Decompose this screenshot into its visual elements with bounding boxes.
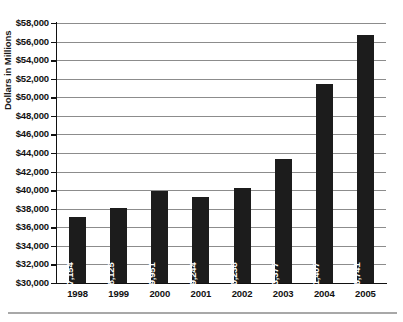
x-axis-tick-labels: 19981999200020012002200320042005: [57, 288, 386, 304]
x-axis-tick-label: 2000: [139, 288, 180, 300]
y-axis-tick: [51, 264, 57, 265]
x-axis-tick-label: 2004: [304, 288, 345, 300]
y-axis-tick-label: $36,000: [1, 222, 49, 232]
y-axis-tick-label: $42,000: [1, 167, 49, 177]
y-axis-tick-label: $50,000: [1, 92, 49, 102]
x-axis-tick-label: 2005: [345, 288, 386, 300]
x-axis-tick-label: 2001: [180, 288, 221, 300]
y-axis-tick-label: $54,000: [1, 55, 49, 65]
bar-slot: $37,154: [57, 23, 98, 283]
bar-1998[interactable]: $37,154: [69, 217, 86, 283]
bar-1999[interactable]: $38,125: [110, 208, 127, 283]
y-axis-tick-label: $38,000: [1, 204, 49, 214]
y-axis-tick: [51, 246, 57, 247]
bar-2003[interactable]: $43,377: [275, 159, 292, 283]
y-axis-tick: [51, 190, 57, 191]
bar-2002[interactable]: $40,238: [234, 188, 251, 283]
bar-slot: $51,407: [304, 23, 345, 283]
y-axis-tick: [51, 79, 57, 80]
y-axis-tick-labels: $58,000$56,000$54,000$52,000$50,000$48,0…: [0, 0, 49, 322]
y-axis-tick-label: $56,000: [1, 37, 49, 47]
y-axis-tick: [51, 209, 57, 210]
bar-slot: $38,125: [98, 23, 139, 283]
bar-2004[interactable]: $51,407: [316, 84, 333, 283]
bar-slot: $40,238: [222, 23, 263, 283]
y-axis-tick: [51, 23, 57, 24]
y-axis-tick: [51, 283, 57, 284]
y-axis-tick-label: $30,000: [1, 278, 49, 288]
y-axis-tick: [51, 134, 57, 135]
y-axis-tick: [51, 42, 57, 43]
bar-2000[interactable]: $39,951: [151, 191, 168, 283]
bar-slot: $39,244: [180, 23, 221, 283]
y-axis-tick: [51, 60, 57, 61]
bar-2005[interactable]: $56,741: [357, 35, 374, 283]
bar-slot: $43,377: [263, 23, 304, 283]
x-axis-tick-label: 1998: [57, 288, 98, 300]
y-axis-tick-label: $58,000: [1, 18, 49, 28]
y-axis-tick-label: $48,000: [1, 111, 49, 121]
bar-2001[interactable]: $39,244: [192, 197, 209, 283]
y-axis-tick: [51, 227, 57, 228]
y-axis-tick-label: $32,000: [1, 259, 49, 269]
y-axis-tick-label: $52,000: [1, 74, 49, 84]
y-axis-tick: [51, 153, 57, 154]
y-axis-tick: [51, 116, 57, 117]
x-axis-tick-label: 2002: [222, 288, 263, 300]
y-axis-tick-label: $34,000: [1, 241, 49, 251]
y-axis-tick: [51, 97, 57, 98]
bar-chart-figure: Dollars in Millions $58,000$56,000$54,00…: [0, 0, 403, 322]
plot-area: $37,154$38,125$39,951$39,244$40,238$43,3…: [57, 23, 386, 283]
y-axis-tick-label: $40,000: [1, 185, 49, 195]
bar-slot: $39,951: [139, 23, 180, 283]
x-axis-tick-label: 2003: [263, 288, 304, 300]
x-axis-tick-label: 1999: [98, 288, 139, 300]
y-axis-tick: [51, 172, 57, 173]
y-axis-tick-label: $44,000: [1, 148, 49, 158]
bar-slot: $56,741: [345, 23, 386, 283]
y-axis-tick-label: $46,000: [1, 129, 49, 139]
bottom-separator-rule: [8, 312, 397, 314]
